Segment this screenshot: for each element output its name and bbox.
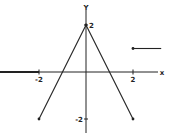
y-axis-label: Y bbox=[82, 4, 89, 12]
x-tick-label: 2 bbox=[131, 76, 136, 84]
endpoint-dot bbox=[132, 47, 135, 50]
endpoint-dot bbox=[85, 24, 88, 27]
x-axis-label: x bbox=[160, 69, 165, 77]
labels-group: -222-2xY bbox=[35, 4, 165, 124]
endpoint-dot bbox=[38, 118, 41, 121]
piecewise-function-plot: -222-2xY bbox=[0, 0, 170, 140]
endpoint-dot bbox=[132, 118, 135, 121]
x-tick-label: -2 bbox=[35, 76, 43, 84]
y-tick-label: -2 bbox=[75, 116, 83, 124]
y-tick-label: 2 bbox=[89, 22, 94, 30]
